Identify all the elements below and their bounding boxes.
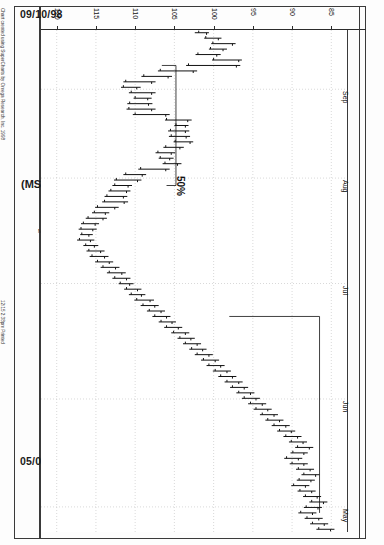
ohlc-bar [174,123,188,127]
plot-area[interactable] [41,30,347,532]
ohlc-bar [298,511,316,515]
copyright-text: Chart created using SuperCharts by Omega… [0,8,5,140]
ohlc-bar [213,369,231,373]
ohlc-bar [152,314,170,318]
ohlc-bar [289,440,307,444]
ohlc-bar [129,293,145,297]
ohlc-bar [298,489,316,493]
chart-page: 09/10/98 05/01/98 (MSFT) Microsoft Corp … [0,0,384,545]
ohlc-bar [236,391,254,395]
ohlc-bar [163,145,183,149]
ohlc-bar [284,456,302,460]
ohlc-bar [207,363,225,367]
ohlc-bar [87,249,105,253]
ohlc-bar [196,52,221,56]
ohlc-bar [123,172,146,176]
ohlc-bar [277,429,295,433]
ohlc-bar [108,189,130,193]
ohlc-bar [159,320,176,324]
ohlc-bar [178,336,195,340]
price-tick-mark [174,26,175,30]
ohlc-bar [225,380,243,384]
ohlc-bar [283,434,301,438]
ohlc-bar [107,271,126,275]
ohlc-bar [218,374,236,378]
ohlc-bar [127,102,152,106]
ohlc-bar [79,227,97,231]
price-tick-100: 100 [218,8,230,15]
ohlc-bar [272,423,290,427]
ohlc-bar [295,445,313,449]
ohlc-bar [95,205,119,209]
ohlc-bar [209,47,227,51]
ohlc-bar [204,36,221,40]
ohlc-bar [105,194,128,198]
ohlc-bar [123,80,155,84]
ohlc-bar [121,85,141,89]
ohlc-bar [102,200,128,204]
ohlc-bar [296,467,314,471]
ohlc-bar [165,118,192,122]
ohlc-bar [81,222,99,226]
ohlc-bar [83,243,98,247]
ohlc-bar [77,238,94,242]
ohlc-bar [169,134,190,138]
ohlc-bar [183,342,201,346]
retracement-50-label: 50% [175,176,186,196]
price-tick-mark [214,26,215,30]
price-tick-115: 115 [100,8,111,15]
ohlc-bar [195,31,209,35]
ohlc-bar [101,265,120,269]
ohlc-bar [297,478,315,482]
ohlc-bar [242,396,260,400]
price-tick-95: 95 [257,8,265,15]
ohlc-bar [112,276,130,280]
ohlc-bar [138,167,169,171]
ohlc-bar [309,500,327,504]
price-tick-mark [96,26,97,30]
price-tick-mark [253,26,254,30]
ohlc-bar [133,112,170,116]
ohlc-bar [303,494,321,498]
price-axis: 120115110105100959085 [41,6,347,30]
ohlc-bars-svg [41,30,347,532]
ohlc-bar [95,260,113,264]
ohlc-bar [163,162,182,166]
ohlc-bar [201,358,219,362]
ohlc-bar [195,353,213,357]
ohlc-bar [119,282,134,286]
print-stamp-text: 12/15 2:38pm Printed [0,300,5,344]
ohlc-bar [260,413,278,417]
price-tick-110: 110 [139,8,150,15]
price-tick-mark [292,26,293,30]
ohlc-bar [141,303,159,307]
price-tick-105: 105 [178,8,190,15]
ohlc-bar [112,183,132,187]
ohlc-bar [164,325,182,329]
ohlc-bar [171,331,189,335]
price-tick-85: 85 [335,8,343,15]
ohlc-bar [86,216,107,220]
ohlc-bar [310,522,328,526]
price-tick-120: 120 [61,8,73,15]
ohlc-bar [141,74,172,78]
month-tick-jul: Jul [349,286,358,293]
ohlc-bar [114,178,141,182]
price-tick-90: 90 [296,8,304,15]
ohlc-bar [254,407,272,411]
ohlc-bar [127,107,156,111]
ohlc-bar [174,140,194,144]
ohlc-bar [301,473,319,477]
price-tick-mark [57,26,58,30]
ohlc-bar [90,254,109,258]
ohlc-bar [134,298,154,302]
price-tick-mark [135,26,136,30]
ohlc-bar [156,151,176,155]
ohlc-bar [212,58,242,62]
ohlc-bar [92,211,109,215]
ohlc-bar [129,91,156,95]
ohlc-bar [159,156,174,160]
ohlc-bar [134,96,152,100]
copyright-column [359,6,367,539]
ohlc-bar [248,402,266,406]
